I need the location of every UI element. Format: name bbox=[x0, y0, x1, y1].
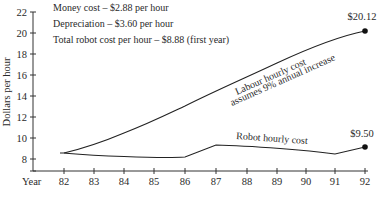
svg-text:90: 90 bbox=[301, 176, 312, 187]
svg-text:10: 10 bbox=[17, 133, 28, 144]
svg-text:92: 92 bbox=[360, 176, 371, 187]
robot-end-point bbox=[362, 144, 368, 150]
cost-notes: Money cost – $2.88 per hour Depreciation… bbox=[53, 2, 229, 46]
labour-end-label: $20.12 bbox=[348, 11, 377, 22]
svg-text:12: 12 bbox=[17, 112, 28, 123]
svg-text:8: 8 bbox=[22, 154, 27, 165]
note-money-cost: Money cost – $2.88 per hour bbox=[53, 2, 169, 13]
x-axis-label: Year bbox=[22, 176, 42, 187]
svg-text:14: 14 bbox=[17, 91, 28, 102]
svg-text:88: 88 bbox=[242, 176, 253, 187]
svg-text:22: 22 bbox=[17, 7, 28, 18]
svg-text:91: 91 bbox=[330, 176, 341, 187]
y-tick-labels: 22 20 18 16 14 12 10 8 bbox=[17, 7, 28, 165]
svg-text:82: 82 bbox=[59, 176, 70, 187]
note-depreciation: Depreciation – $3.60 per hour bbox=[53, 18, 174, 29]
svg-text:84: 84 bbox=[119, 176, 130, 187]
svg-text:89: 89 bbox=[272, 176, 283, 187]
robot-end-label: $9.50 bbox=[350, 128, 374, 139]
note-total-cost: Total robot cost per hour – $8.88 (first… bbox=[53, 34, 229, 46]
robot-series-label: Robot hourly cost bbox=[236, 130, 308, 146]
svg-text:18: 18 bbox=[17, 49, 28, 60]
x-tick-labels: 82 83 84 85 86 87 88 89 90 91 92 bbox=[59, 176, 371, 187]
svg-text:87: 87 bbox=[211, 176, 222, 187]
labour-cost-line bbox=[64, 31, 365, 153]
svg-text:86: 86 bbox=[180, 176, 191, 187]
labour-end-point bbox=[362, 28, 368, 34]
svg-text:20: 20 bbox=[17, 28, 28, 39]
chart: 22 20 18 16 14 12 10 8 Dollars per hour … bbox=[0, 0, 379, 197]
svg-text:83: 83 bbox=[89, 176, 100, 187]
svg-text:85: 85 bbox=[149, 176, 160, 187]
y-axis-label: Dollars per hour bbox=[1, 57, 12, 126]
svg-text:16: 16 bbox=[17, 70, 28, 81]
robot-cost-line bbox=[60, 145, 365, 158]
